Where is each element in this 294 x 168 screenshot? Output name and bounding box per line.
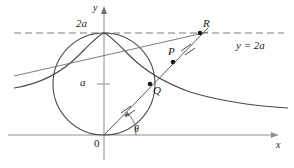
figure-canvas [0, 0, 294, 168]
label-x-axis: x [276, 140, 280, 150]
label-angle-theta: θ [134, 124, 139, 134]
label-a: a [80, 77, 86, 88]
label-point-p: P [168, 46, 175, 57]
point-r-dot [198, 31, 203, 36]
label-y-axis: y [93, 3, 97, 13]
agnesi-figure: 2a a y x 0 P Q R y = 2a θ [0, 0, 294, 168]
label-two-a: 2a [76, 18, 87, 29]
label-point-r: R [203, 18, 210, 29]
tangent-guide-line [14, 32, 208, 76]
y-axis [101, 6, 107, 160]
x-axis [8, 132, 278, 138]
label-asymptote: y = 2a [236, 40, 265, 51]
label-point-q: Q [153, 85, 161, 96]
label-origin: 0 [94, 138, 100, 149]
point-p-dot [171, 60, 176, 65]
point-q-dot [148, 82, 153, 87]
